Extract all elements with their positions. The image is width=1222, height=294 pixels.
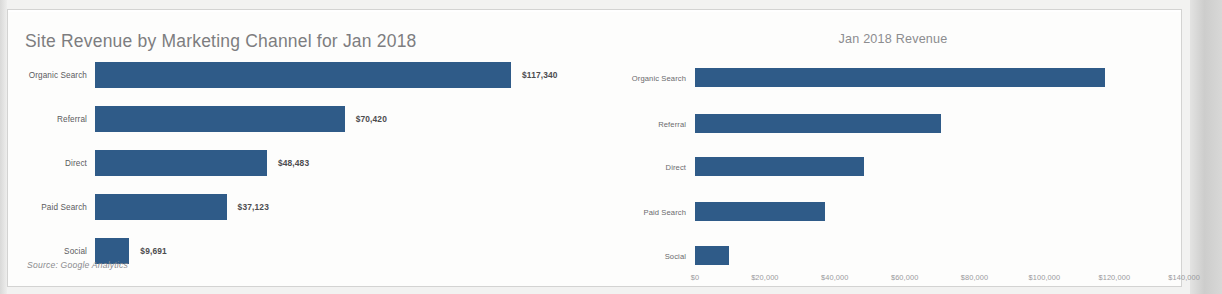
right-chart-category-label: Referral xyxy=(608,119,686,128)
right-chart-category-label: Organic Search xyxy=(608,73,686,82)
right-chart-bar-row: Direct xyxy=(608,157,1178,176)
right-chart-x-tick-label: $100,000 xyxy=(1029,273,1061,282)
right-chart-title: Jan 2018 Revenue xyxy=(608,32,1178,46)
scanned-page: Site Revenue by Marketing Channel for Ja… xyxy=(0,0,1222,294)
right-chart-x-axis: $0$20,000$40,000$60,000$80,000$100,000$1… xyxy=(608,273,1178,287)
right-chart-x-tick-label: $20,000 xyxy=(751,273,778,282)
left-chart-bar-row: Referral$70,420 xyxy=(16,106,606,132)
left-chart-value-label: $37,123 xyxy=(238,202,269,212)
right-chart-bar[interactable] xyxy=(695,68,1105,87)
right-chart-bar-row: Organic Search xyxy=(608,68,1178,87)
right-chart-category-label: Paid Search xyxy=(608,207,686,216)
source-note: Source: Google Analytics xyxy=(27,260,128,270)
right-chart-bar-row: Referral xyxy=(608,114,1178,133)
left-chart-bar[interactable] xyxy=(95,62,511,88)
page-left-shadow xyxy=(0,0,7,294)
left-chart-category-label: Direct xyxy=(16,159,87,168)
right-chart-x-tick-label: $120,000 xyxy=(1098,273,1130,282)
left-chart-bar[interactable] xyxy=(95,150,267,176)
left-chart-category-label: Organic Search xyxy=(16,71,87,80)
left-chart-title: Site Revenue by Marketing Channel for Ja… xyxy=(25,31,417,52)
right-chart-x-tick-label: $60,000 xyxy=(891,273,918,282)
right-chart-bar[interactable] xyxy=(695,157,864,176)
chart-card: Site Revenue by Marketing Channel for Ja… xyxy=(7,9,1182,287)
left-chart-bar[interactable] xyxy=(95,194,227,220)
left-chart-value-label: $9,691 xyxy=(140,246,167,256)
right-chart-bar[interactable] xyxy=(695,202,825,221)
left-chart-category-label: Referral xyxy=(16,115,87,124)
right-bar-chart: Jan 2018 Revenue Organic SearchReferralD… xyxy=(608,20,1178,278)
right-chart-category-label: Social xyxy=(608,251,686,260)
left-chart-bar[interactable] xyxy=(95,106,345,132)
left-chart-bar-row: Organic Search$117,340 xyxy=(16,62,606,88)
left-chart-category-label: Social xyxy=(16,247,87,256)
card-top-highlight xyxy=(8,10,1181,12)
left-chart-bar-row: Direct$48,483 xyxy=(16,150,606,176)
left-chart-value-label: $117,340 xyxy=(522,70,558,80)
left-chart-value-label: $70,420 xyxy=(356,114,387,124)
page-right-shadow xyxy=(1190,0,1222,294)
right-chart-x-tick-label: $0 xyxy=(691,273,699,282)
right-chart-x-tick-label: $40,000 xyxy=(821,273,848,282)
right-chart-category-label: Direct xyxy=(608,162,686,171)
right-chart-bar[interactable] xyxy=(695,246,729,265)
right-chart-bar[interactable] xyxy=(695,114,941,133)
left-chart-bar-row: Paid Search$37,123 xyxy=(16,194,606,220)
left-chart-value-label: $48,483 xyxy=(278,158,309,168)
right-chart-bar-row: Social xyxy=(608,246,1178,265)
left-bar-chart: Site Revenue by Marketing Channel for Ja… xyxy=(16,20,606,278)
right-chart-x-tick-label: $140,000 xyxy=(1168,273,1200,282)
right-chart-x-tick-label: $80,000 xyxy=(961,273,988,282)
left-chart-category-label: Paid Search xyxy=(16,203,87,212)
right-chart-bar-row: Paid Search xyxy=(608,202,1178,221)
